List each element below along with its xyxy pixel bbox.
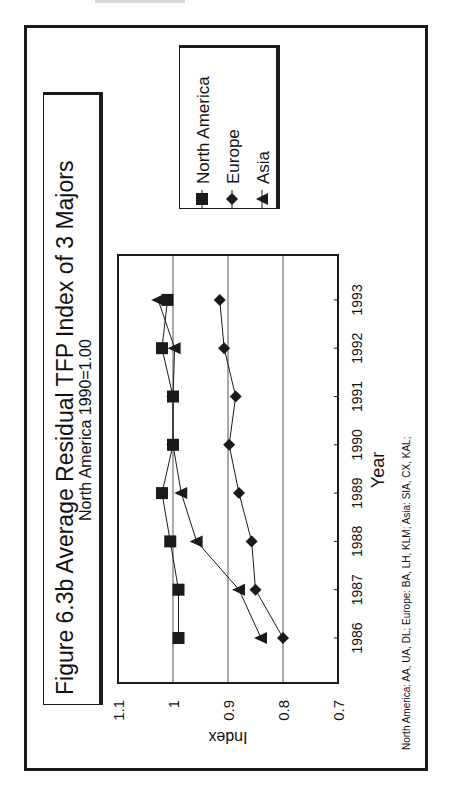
square-marker-icon: [156, 487, 168, 499]
y-tick-label: 0.8: [275, 700, 292, 721]
triangle-marker-icon: [232, 584, 245, 596]
y-axis-label: Index: [208, 729, 247, 746]
footnote: North America: AA, UA, DL; Europe: BA, L…: [401, 437, 412, 750]
x-tick-label: 1989: [349, 477, 365, 508]
square-marker-icon: [164, 535, 176, 547]
x-axis-tick-labels: 19861987198819891990199119921993: [349, 284, 365, 653]
square-marker-icon: [173, 584, 185, 596]
y-tick-label: 1.1: [110, 700, 127, 721]
x-tick-label: 1993: [349, 284, 365, 315]
diamond-marker-icon: [223, 439, 235, 451]
diamond-marker-icon: [233, 487, 245, 499]
diamond-marker-icon: [277, 632, 289, 644]
diamond-marker-icon: [214, 294, 226, 306]
x-tick-label: 1987: [349, 574, 365, 605]
gridlines: [173, 255, 283, 683]
y-tick-label: 0.9: [220, 700, 237, 721]
triangle-marker-icon: [151, 294, 164, 306]
x-tick-label: 1986: [349, 622, 365, 653]
diamond-marker-icon: [246, 535, 258, 547]
x-tick-label: 1990: [349, 429, 365, 460]
data-series: [151, 294, 289, 644]
series-line-europe: [220, 300, 283, 638]
x-tick-label: 1988: [349, 526, 365, 557]
triangle-marker-icon: [190, 535, 203, 547]
x-axis-label: Year: [368, 452, 388, 488]
plot-area: 1.110.90.80.7 19861987198819891990199119…: [0, 0, 451, 805]
x-tick-label: 1991: [349, 381, 365, 412]
square-marker-icon: [156, 342, 168, 354]
y-axis-tick-labels: 1.110.90.80.7: [110, 700, 347, 721]
y-tick-label: 1: [165, 700, 182, 708]
y-tick-label: 0.7: [330, 700, 347, 721]
x-tick-label: 1992: [349, 332, 365, 363]
triangle-marker-icon: [254, 632, 267, 644]
square-marker-icon: [173, 632, 185, 644]
diamond-marker-icon: [230, 391, 242, 403]
diamond-marker-icon: [250, 584, 262, 596]
